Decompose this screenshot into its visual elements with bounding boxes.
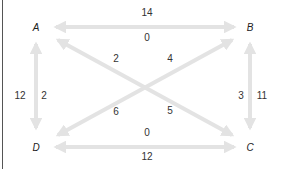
node-b: B (247, 22, 254, 33)
weight-b-c-right: 11 (257, 90, 267, 101)
weight-a-c-upper: 2 (113, 53, 119, 64)
weight-d-to-c: 12 (141, 151, 152, 162)
weight-b-c-left: 3 (238, 90, 244, 101)
diagram-canvas: A B C D 14 0 0 12 12 2 3 11 2 5 4 6 (0, 0, 281, 169)
node-a: A (33, 22, 40, 33)
weight-b-d-upper: 4 (167, 53, 173, 64)
weight-a-to-b: 14 (141, 7, 152, 18)
node-d: D (32, 142, 39, 153)
edges-layer (0, 0, 281, 169)
weight-a-d-left: 12 (14, 90, 25, 101)
weight-b-d-lower: 6 (113, 106, 119, 117)
weight-c-to-d: 0 (144, 127, 150, 138)
weight-a-d-right: 2 (41, 90, 47, 101)
weight-a-c-lower: 5 (167, 105, 173, 116)
weight-b-to-a: 0 (144, 32, 150, 43)
node-c: C (246, 142, 253, 153)
